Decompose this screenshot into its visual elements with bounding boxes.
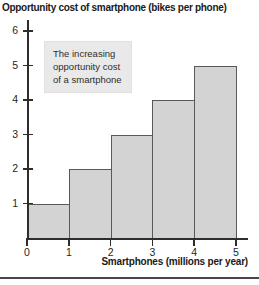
- y-tick: [23, 168, 34, 170]
- x-tick-label: 1: [59, 246, 79, 258]
- bar: [27, 204, 70, 240]
- bar: [152, 100, 195, 240]
- x-tick: [110, 238, 112, 246]
- x-tick: [26, 238, 28, 246]
- x-axis-line: [27, 238, 248, 240]
- y-tick: [23, 203, 34, 205]
- bar: [194, 66, 237, 240]
- x-tick: [193, 238, 195, 246]
- y-tick-label: 3: [0, 128, 18, 140]
- x-tick-label: 0: [17, 246, 37, 258]
- x-tick: [68, 238, 70, 246]
- annotation-line: opportunity cost: [53, 60, 127, 73]
- bar: [69, 169, 112, 240]
- y-tick-label: 4: [0, 93, 18, 105]
- y-tick-label: 1: [0, 197, 18, 209]
- y-tick: [23, 65, 34, 67]
- x-tick: [235, 238, 237, 246]
- y-tick: [23, 99, 34, 101]
- opportunity-cost-chart: Opportunity cost of smartphone (bikes pe…: [0, 0, 259, 285]
- annotation-line: of a smartphone: [53, 73, 127, 86]
- x-axis-label: Smartphones (millions per year): [101, 256, 248, 267]
- y-tick-label: 2: [0, 162, 18, 174]
- bottom-rule: [0, 277, 259, 279]
- y-tick-label: 5: [0, 59, 18, 71]
- y-tick-label: 6: [0, 24, 18, 36]
- bar: [111, 135, 154, 240]
- annotation-line: The increasing: [53, 47, 127, 60]
- y-tick: [23, 30, 34, 32]
- y-axis-line: [27, 20, 29, 240]
- y-tick: [23, 134, 34, 136]
- x-tick: [152, 238, 154, 246]
- annotation-box: The increasing opportunity cost of a sma…: [44, 41, 132, 93]
- chart-title: Opportunity cost of smartphone (bikes pe…: [2, 2, 258, 13]
